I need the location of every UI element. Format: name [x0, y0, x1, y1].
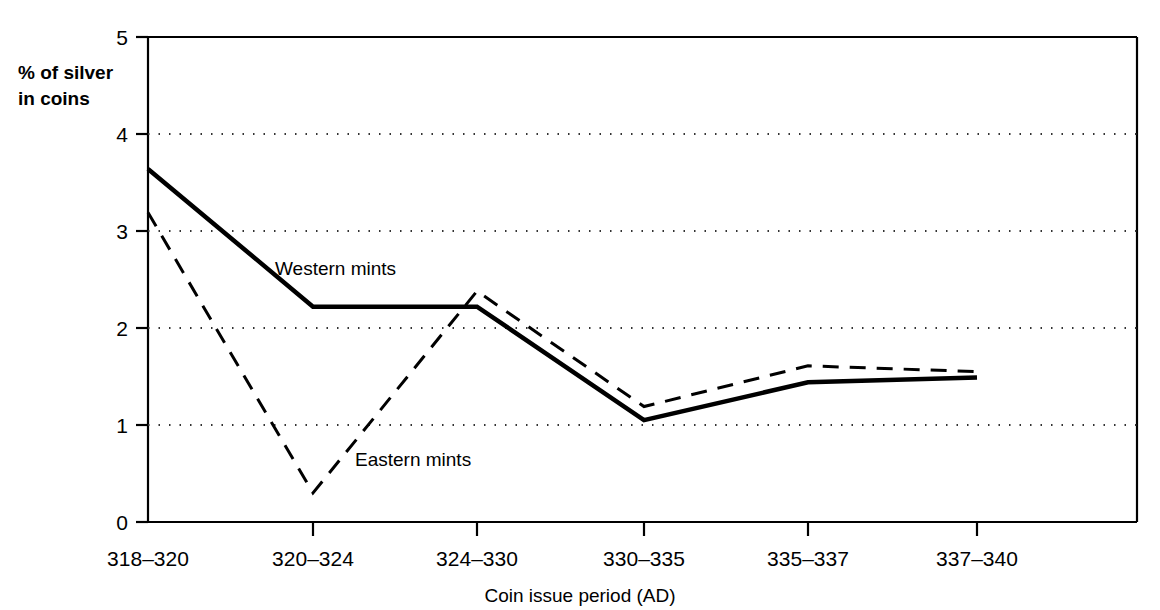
series-line-western-mints: [148, 169, 977, 420]
plot-frame: [148, 37, 1137, 522]
series-annotation-eastern-mints: Eastern mints: [355, 449, 471, 470]
x-tick-label-330-335: 330–335: [603, 547, 685, 570]
x-axis-ticks: [313, 522, 977, 536]
y-tick-label-5: 5: [116, 26, 128, 49]
y-axis-title-line2: in coins: [18, 88, 90, 109]
x-tick-label-324-330: 324–330: [436, 547, 518, 570]
y-tick-label-4: 4: [116, 123, 128, 146]
y-axis-title-line1: % of silver: [18, 62, 114, 83]
x-axis-title: Coin issue period (AD): [484, 585, 675, 606]
y-tick-label-2: 2: [116, 317, 128, 340]
y-axis-ticks: [136, 37, 148, 522]
y-tick-label-3: 3: [116, 220, 128, 243]
y-tick-label-1: 1: [116, 414, 128, 437]
x-tick-label-320-324: 320–324: [272, 547, 354, 570]
series-line-eastern-mints: [148, 213, 977, 493]
y-tick-label-0: 0: [116, 511, 128, 534]
gridlines: [148, 134, 1137, 425]
x-tick-label-337-340: 337–340: [936, 547, 1018, 570]
x-tick-label-318-320: 318–320: [107, 547, 189, 570]
silver-content-line-chart: 0 1 2 3 4 5 % of silver in coins 318–320…: [0, 0, 1160, 610]
series-annotation-western-mints: Western mints: [275, 258, 396, 279]
x-tick-label-335-337: 335–337: [767, 547, 849, 570]
chart-figure: 0 1 2 3 4 5 % of silver in coins 318–320…: [0, 0, 1160, 610]
